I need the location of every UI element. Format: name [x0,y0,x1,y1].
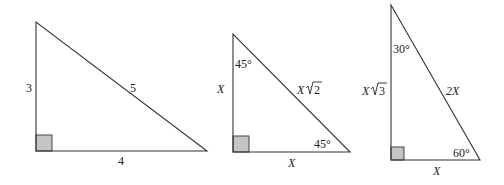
triangle-outline [391,5,480,160]
triangle-outline [233,34,350,152]
side-label-base: X [432,164,441,178]
angle-label-top: 45° [235,57,252,71]
triangles-diagram: 3 5 4 45° X X 2 45° X 30° X 3 2X 60° X [0,0,504,185]
svg-text:X: X [296,83,305,97]
side-label-hypotenuse: 2X [446,84,460,98]
angle-label-bottom: 45° [314,137,331,151]
triangle-3-4-5: 3 5 4 [26,22,207,168]
side-label-vertical: 3 [26,81,32,95]
side-label-base: X [287,156,296,170]
side-label-hypotenuse: X 2 [296,82,322,97]
triangle-45-45-90: 45° X X 2 45° X [216,34,350,170]
angle-label-top: 30° [393,42,410,56]
triangle-30-60-90: 30° X 3 2X 60° X [361,5,480,178]
right-angle-marker [233,136,249,152]
side-label-hypotenuse: 5 [130,81,136,95]
side-label-vertical: X [216,82,225,96]
angle-label-bottom: 60° [453,146,470,160]
side-label-base: 4 [118,154,124,168]
svg-text:3: 3 [379,84,385,98]
svg-text:X: X [361,84,370,98]
right-angle-marker [36,135,52,151]
svg-text:2: 2 [314,83,320,97]
triangle-outline [36,22,207,151]
side-label-vertical: X 3 [361,83,387,98]
right-angle-marker [391,147,404,160]
